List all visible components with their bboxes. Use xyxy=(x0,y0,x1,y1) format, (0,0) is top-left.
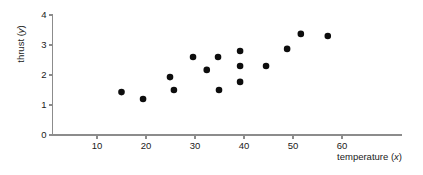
axes-group xyxy=(49,15,403,135)
data-point xyxy=(298,31,305,38)
data-point xyxy=(263,63,270,70)
data-point xyxy=(203,67,210,74)
x-axis-tick-label: 20 xyxy=(141,140,152,151)
x-axis-tick-label: 40 xyxy=(239,140,250,151)
data-point xyxy=(284,46,291,53)
data-point xyxy=(215,54,222,61)
x-axis-tick-label: 10 xyxy=(92,140,103,151)
data-point xyxy=(118,89,125,96)
data-point xyxy=(216,87,223,94)
x-axis-tick-label: 60 xyxy=(337,140,348,151)
y-axis-tick-label: 4 xyxy=(41,9,46,20)
y-axis-tick-label: 1 xyxy=(41,99,46,110)
data-point xyxy=(167,74,174,81)
x-axis-tick-label: 50 xyxy=(288,140,299,151)
y-axis-tick-label: 3 xyxy=(41,39,46,50)
data-point xyxy=(140,96,147,103)
x-axis-title: temperature (x) xyxy=(337,151,402,162)
data-point xyxy=(324,33,331,40)
y-axis-tick-label: 2 xyxy=(41,69,46,80)
y-axis-tick-label: 0 xyxy=(41,129,46,140)
data-point xyxy=(237,63,244,70)
data-point xyxy=(190,54,197,61)
data-points-group xyxy=(118,31,331,103)
data-point xyxy=(237,79,244,86)
plot-canvas: 01234102030405060 temperature (x)thrust … xyxy=(0,0,423,175)
data-point xyxy=(237,48,244,55)
tick-labels-group: 01234102030405060 xyxy=(41,9,347,150)
scatter-plot-figure: 01234102030405060 temperature (x)thrust … xyxy=(0,0,423,175)
data-point xyxy=(171,87,178,94)
x-axis-tick-label: 30 xyxy=(190,140,201,151)
y-axis-title: thrust (y) xyxy=(15,25,26,62)
